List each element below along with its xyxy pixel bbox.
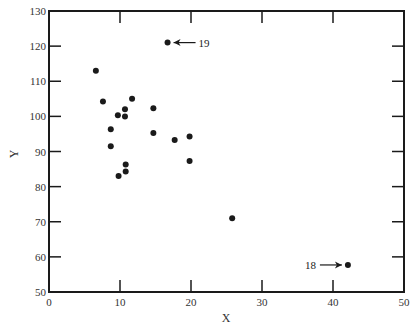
data-point bbox=[93, 68, 99, 74]
annotation-18: 18 bbox=[305, 259, 342, 271]
y-tick-label: 50 bbox=[35, 286, 47, 298]
data-point bbox=[108, 143, 114, 149]
x-tick-labels: 01020304050 bbox=[46, 296, 410, 308]
axis-ticks bbox=[49, 11, 404, 292]
y-tick-label: 60 bbox=[35, 251, 47, 263]
x-tick-label: 20 bbox=[186, 296, 198, 308]
y-tick-label: 130 bbox=[30, 5, 47, 17]
data-point bbox=[122, 113, 128, 119]
plot-frame bbox=[49, 11, 404, 292]
y-tick-labels: 5060708090100110120130 bbox=[30, 5, 47, 298]
x-axis-label: X bbox=[222, 311, 231, 325]
data-point bbox=[150, 130, 156, 136]
x-tick-label: 30 bbox=[257, 296, 269, 308]
data-point bbox=[187, 133, 193, 139]
data-point bbox=[229, 215, 235, 221]
scatter-chart: 01020304050 5060708090100110120130 X Y 1… bbox=[0, 0, 414, 328]
x-tick-label: 50 bbox=[399, 296, 411, 308]
annotation-label: 19 bbox=[199, 37, 211, 49]
data-point bbox=[187, 158, 193, 164]
x-tick-label: 40 bbox=[328, 296, 340, 308]
annotations: 1819 bbox=[174, 37, 342, 271]
y-tick-label: 110 bbox=[30, 75, 47, 87]
data-point bbox=[172, 137, 178, 143]
data-point bbox=[116, 173, 122, 179]
data-point bbox=[100, 99, 106, 105]
y-tick-label: 120 bbox=[30, 40, 47, 52]
y-tick-label: 90 bbox=[35, 146, 47, 158]
y-tick-label: 100 bbox=[30, 110, 47, 122]
data-point bbox=[122, 106, 128, 112]
annotation-label: 18 bbox=[305, 259, 317, 271]
data-point bbox=[129, 96, 135, 102]
data-point bbox=[150, 105, 156, 111]
data-points bbox=[93, 40, 351, 268]
data-point bbox=[123, 161, 129, 167]
y-axis-label: Y bbox=[7, 149, 21, 158]
data-point bbox=[115, 112, 121, 118]
y-tick-label: 70 bbox=[35, 216, 47, 228]
x-tick-label: 10 bbox=[115, 296, 127, 308]
data-point bbox=[108, 126, 114, 132]
x-tick-label: 0 bbox=[46, 296, 52, 308]
data-point bbox=[165, 40, 171, 46]
annotation-19: 19 bbox=[174, 37, 211, 49]
data-point bbox=[123, 169, 129, 175]
data-point bbox=[345, 262, 351, 268]
y-tick-label: 80 bbox=[35, 181, 47, 193]
plot-border bbox=[49, 11, 404, 292]
